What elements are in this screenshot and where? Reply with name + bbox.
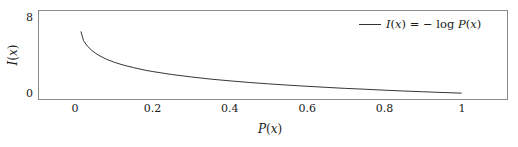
x-tick-label: 0.6	[298, 103, 316, 115]
plot-area: I(x) = − log P(x)	[38, 10, 508, 100]
x-axis-label: P(x)	[258, 122, 282, 136]
x-tick-label: 1	[459, 103, 466, 115]
xlabel-x-symbol: x	[271, 122, 278, 136]
ylabel-x-symbol: x	[6, 49, 20, 56]
xlabel-p-symbol: P	[258, 122, 266, 136]
y-axis-label: I(x)	[6, 45, 20, 66]
ylabel-i-symbol: I	[6, 61, 20, 66]
xlabel-paren-close: )	[277, 122, 282, 136]
legend-p-symbol: P	[458, 17, 466, 31]
ylabel-paren-open: (	[6, 56, 20, 61]
chart-figure: I(x) = − log P(x) 00.20.40.60.81 08 P(x)…	[0, 0, 518, 147]
y-tick-label: 8	[26, 12, 33, 24]
legend-paren-close-2: )	[477, 17, 482, 31]
legend-log-operator: log	[436, 17, 454, 31]
x-tick-label: 0.2	[144, 103, 162, 115]
data-series-line	[81, 32, 461, 93]
x-tick-label: 0	[72, 103, 79, 115]
legend-minus-sign: −	[423, 17, 436, 31]
legend-equals-sign: =	[406, 17, 423, 31]
y-tick-label: 0	[26, 88, 33, 100]
ylabel-paren-close: )	[6, 45, 20, 50]
x-tick-label: 0.8	[376, 103, 394, 115]
legend-line-swatch	[359, 24, 381, 25]
x-tick-label: 0.4	[221, 103, 239, 115]
legend: I(x) = − log P(x)	[359, 17, 481, 31]
legend-label: I(x) = − log P(x)	[386, 17, 481, 31]
